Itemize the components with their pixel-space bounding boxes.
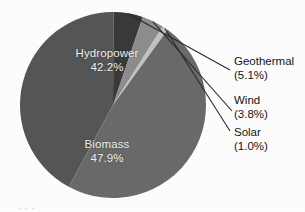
slice-label-hydropower-value: 42.2% [52, 61, 162, 75]
callout-label-geothermal-name: Geothermal [234, 55, 294, 67]
slice-label-hydropower: Hydropower 42.2% [52, 47, 162, 74]
slice-label-biomass: Biomass 47.9% [52, 138, 162, 165]
callout-label-wind: Wind (3.8%) [234, 93, 268, 121]
caption-fragment: . . . [18, 201, 36, 212]
slice-label-biomass-value: 47.9% [52, 152, 162, 166]
callout-label-wind-name: Wind [234, 94, 260, 106]
callout-label-geothermal: Geothermal (5.1%) [234, 54, 294, 82]
slice-label-hydropower-name: Hydropower [76, 47, 139, 59]
callout-label-geothermal-value: (5.1%) [234, 68, 294, 82]
callout-label-solar-name: Solar [234, 126, 261, 138]
slice-label-biomass-name: Biomass [85, 138, 130, 150]
callout-label-wind-value: (3.8%) [234, 107, 268, 121]
pie-chart: Hydropower 42.2% Biomass 47.9% Geotherma… [0, 0, 305, 212]
callout-label-solar: Solar (1.0%) [234, 125, 268, 153]
callout-label-solar-value: (1.0%) [234, 139, 268, 153]
